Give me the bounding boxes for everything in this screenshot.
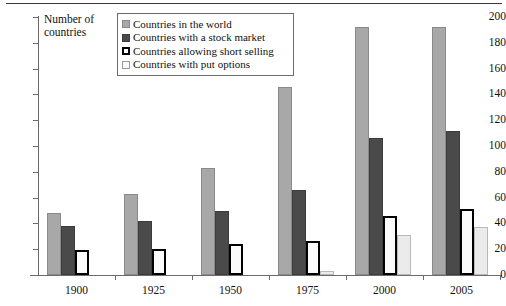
- x-axis-tick-label: 1925: [124, 284, 184, 296]
- bar: [292, 190, 306, 275]
- bars-layer: [0, 0, 506, 275]
- bar: [397, 235, 411, 275]
- bar: [61, 226, 75, 275]
- bar: [355, 27, 369, 275]
- bar: [432, 27, 446, 275]
- bar: [306, 241, 320, 275]
- bar-chart-figure: Number of countries Countries in the wor…: [0, 0, 506, 306]
- x-axis-tick-mark: [346, 275, 347, 280]
- x-axis-tick-label: 2000: [355, 284, 415, 296]
- x-axis-tick-label: 1975: [278, 284, 338, 296]
- x-axis-tick-label: 1900: [47, 284, 107, 296]
- x-axis-tick-mark: [192, 275, 193, 280]
- y-axis-tick-mark: [33, 275, 38, 276]
- x-axis-tick-label: 2005: [432, 284, 492, 296]
- x-axis-line: [30, 275, 502, 276]
- bar: [215, 211, 229, 276]
- x-axis-tick-mark: [115, 275, 116, 280]
- x-axis-tick-mark: [423, 275, 424, 280]
- bar: [369, 138, 383, 275]
- bar: [47, 213, 61, 275]
- bar: [320, 271, 334, 275]
- x-axis-tick-label: 1950: [201, 284, 261, 296]
- bar: [124, 194, 138, 275]
- bar: [152, 249, 166, 275]
- x-axis-tick-mark: [269, 275, 270, 280]
- bar: [446, 131, 460, 275]
- bar: [138, 221, 152, 275]
- bar: [474, 227, 488, 275]
- x-axis-tick-mark: [500, 275, 501, 280]
- bar: [229, 244, 243, 275]
- bar: [460, 209, 474, 275]
- bar: [383, 216, 397, 275]
- bar: [278, 87, 292, 275]
- bar: [201, 168, 215, 275]
- bar: [75, 250, 89, 275]
